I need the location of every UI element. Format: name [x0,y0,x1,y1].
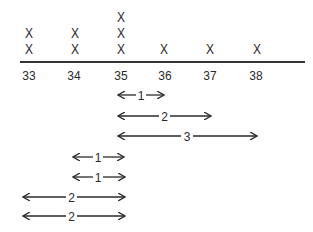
arrow-label: 1 [95,151,102,165]
arrow-label: 2 [68,191,75,205]
arrow-label: 2 [161,110,168,124]
arrow-label: 1 [138,89,145,103]
arrow-label: 2 [68,210,75,224]
arrow-label: 3 [184,130,191,144]
distance-arrows: 1 2 3 1 1 2 2 [0,0,313,232]
arrow-label: 1 [95,171,102,185]
